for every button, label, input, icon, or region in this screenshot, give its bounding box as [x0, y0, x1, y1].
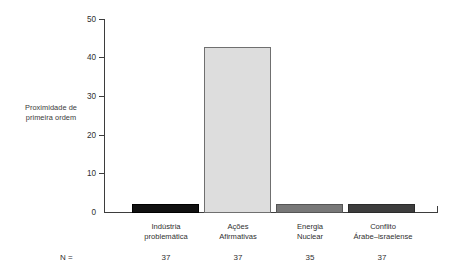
x-category-label-4: Conflito Árabe–israelense — [336, 222, 430, 242]
n-value-2: 37 — [197, 253, 279, 262]
bar-energia-nuclear[interactable] — [276, 204, 343, 213]
y-tick-label-50: 50 — [68, 15, 96, 24]
y-axis-label-line-1: Proximidade de — [8, 103, 94, 113]
y-tick-label-40: 40 — [68, 53, 96, 62]
y-axis-line — [104, 19, 105, 213]
y-tick-label-0: 0 — [68, 208, 96, 217]
x-category-label-2-line-2: Afirmativas — [197, 232, 279, 242]
x-category-label-4-line-2: Árabe–israelense — [336, 232, 430, 242]
x-category-label-1: Indústria problemática — [125, 222, 207, 242]
n-value-4: 37 — [341, 253, 423, 262]
n-row-label: N = — [60, 253, 73, 262]
x-category-label-1-line-2: problemática — [125, 232, 207, 242]
bar-industria-problematica[interactable] — [132, 204, 199, 213]
bar-conflito-arabe-israelense[interactable] — [348, 204, 415, 213]
y-tick-30 — [99, 96, 105, 97]
y-axis-label: Proximidade de primeira ordem — [8, 103, 94, 123]
y-tick-10 — [99, 173, 105, 174]
y-tick-label-20: 20 — [68, 131, 96, 140]
y-tick-20 — [99, 135, 105, 136]
y-axis-label-line-2: primeira ordem — [8, 113, 94, 123]
y-tick-label-10: 10 — [68, 169, 96, 178]
x-category-label-1-line-1: Indústria — [125, 222, 207, 232]
y-tick-50 — [99, 19, 105, 20]
x-axis-end-tick — [437, 206, 438, 213]
y-tick-40 — [99, 57, 105, 58]
bar-acoes-afirmativas[interactable] — [204, 47, 271, 213]
x-category-label-2: Ações Afirmativas — [197, 222, 279, 242]
x-category-label-4-line-1: Conflito — [336, 222, 430, 232]
y-tick-label-30: 30 — [68, 92, 96, 101]
bar-chart: Proximidade de primeira ordem 50 40 30 2… — [0, 0, 449, 274]
x-category-label-2-line-1: Ações — [197, 222, 279, 232]
n-value-3: 35 — [269, 253, 351, 262]
n-value-1: 37 — [125, 253, 207, 262]
